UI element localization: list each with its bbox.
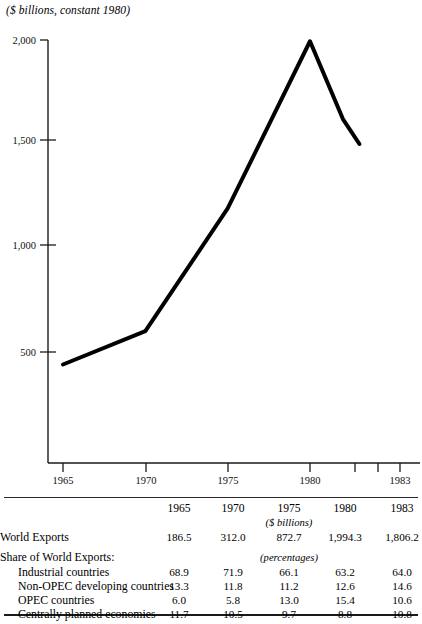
unit-label-billions: ($ billions) bbox=[260, 516, 318, 530]
y-tick-label-500: 500 bbox=[20, 347, 36, 358]
unit-row-billions-spacer bbox=[0, 516, 152, 530]
row-value: 10.8 bbox=[372, 607, 422, 621]
row-label-opec-countries: OPEC countries bbox=[0, 593, 152, 607]
row-value: 312.0 bbox=[206, 530, 260, 544]
x-tick-label-1983: 1983 bbox=[390, 475, 411, 486]
row-value: 6.0 bbox=[152, 593, 206, 607]
table: 1965 1970 1975 1980 1983 ($ billions) bbox=[0, 502, 422, 622]
table-row: Share of World Exports: (percentages) bbox=[0, 550, 422, 565]
row-value: 9.7 bbox=[260, 607, 318, 621]
table-header-1983: 1983 bbox=[372, 502, 422, 516]
row-value: 14.6 bbox=[372, 579, 422, 593]
row-value-empty bbox=[372, 550, 422, 565]
x-tick-label-1975: 1975 bbox=[218, 475, 239, 486]
table-header-1970: 1970 bbox=[206, 502, 260, 516]
table-header-row: 1965 1970 1975 1980 1983 bbox=[0, 502, 422, 516]
unit-cell-empty-1970 bbox=[206, 516, 260, 530]
table-row: OPEC countries 6.0 5.8 13.0 15.4 10.6 bbox=[0, 593, 422, 607]
row-value: 872.7 bbox=[260, 530, 318, 544]
unit-cell-empty-1980 bbox=[318, 516, 372, 530]
row-value: 15.4 bbox=[318, 593, 372, 607]
table-header-label bbox=[0, 502, 152, 516]
row-value: 68.9 bbox=[152, 565, 206, 579]
table-header-1980: 1980 bbox=[318, 502, 372, 516]
row-value-empty bbox=[206, 550, 260, 565]
row-label-share-of-world-exports: Share of World Exports: bbox=[0, 550, 152, 565]
table-row: World Exports 186.5 312.0 872.7 1,994.3 … bbox=[0, 530, 422, 544]
row-value-empty bbox=[152, 550, 206, 565]
row-value: 11.2 bbox=[260, 579, 318, 593]
y-tick-label-1500: 1,500 bbox=[12, 135, 36, 146]
line-chart-plot: 2,000 1,500 1,000 500 1965 1970 1975 198… bbox=[0, 0, 422, 500]
table-row: Non-OPEC developing countries 13.3 11.8 … bbox=[0, 579, 422, 593]
x-tick-label-1980: 1980 bbox=[300, 475, 321, 486]
unit-cell-empty-1983 bbox=[372, 516, 422, 530]
table-header-1965: 1965 bbox=[152, 502, 206, 516]
row-label-world-exports: World Exports bbox=[0, 530, 152, 544]
table-top-rule bbox=[4, 497, 418, 498]
row-value: 66.1 bbox=[260, 565, 318, 579]
y-tick-label-1000: 1,000 bbox=[12, 240, 36, 251]
unit-row-billions: ($ billions) bbox=[0, 516, 422, 530]
unit-label-percentages: (percentages) bbox=[260, 550, 318, 565]
row-value-empty bbox=[318, 550, 372, 565]
table-row: Industrial countries 68.9 71.9 66.1 63.2… bbox=[0, 565, 422, 579]
row-value: 64.0 bbox=[372, 565, 422, 579]
row-value: 12.6 bbox=[318, 579, 372, 593]
row-label-centrally-planned-economies: Centrally planned economies bbox=[0, 607, 152, 621]
table-header-1975: 1975 bbox=[260, 502, 318, 516]
world-exports-line bbox=[63, 41, 359, 364]
x-tick-label-1970: 1970 bbox=[136, 475, 157, 486]
row-value: 8.8 bbox=[318, 607, 372, 621]
row-value: 10.5 bbox=[206, 607, 260, 621]
row-value: 1,806.2 bbox=[372, 530, 422, 544]
row-value: 11.8 bbox=[206, 579, 260, 593]
row-value: 1,994.3 bbox=[318, 530, 372, 544]
row-label-industrial-countries: Industrial countries bbox=[0, 565, 152, 579]
row-value: 13.0 bbox=[260, 593, 318, 607]
row-value: 5.8 bbox=[206, 593, 260, 607]
row-value: 63.2 bbox=[318, 565, 372, 579]
world-exports-figure: ($ billions, constant 1980) 2,000 1,500 … bbox=[0, 0, 422, 624]
unit-cell-empty-1965 bbox=[152, 516, 206, 530]
row-value: 11.7 bbox=[152, 607, 206, 621]
y-tick-label-2000: 2,000 bbox=[12, 35, 36, 46]
row-value: 71.9 bbox=[206, 565, 260, 579]
row-label-non-opec-developing-countries: Non-OPEC developing countries bbox=[0, 579, 152, 593]
row-value: 186.5 bbox=[152, 530, 206, 544]
table-row: Centrally planned economies 11.7 10.5 9.… bbox=[0, 607, 422, 621]
x-tick-label-1965: 1965 bbox=[53, 475, 74, 486]
row-value: 10.6 bbox=[372, 593, 422, 607]
